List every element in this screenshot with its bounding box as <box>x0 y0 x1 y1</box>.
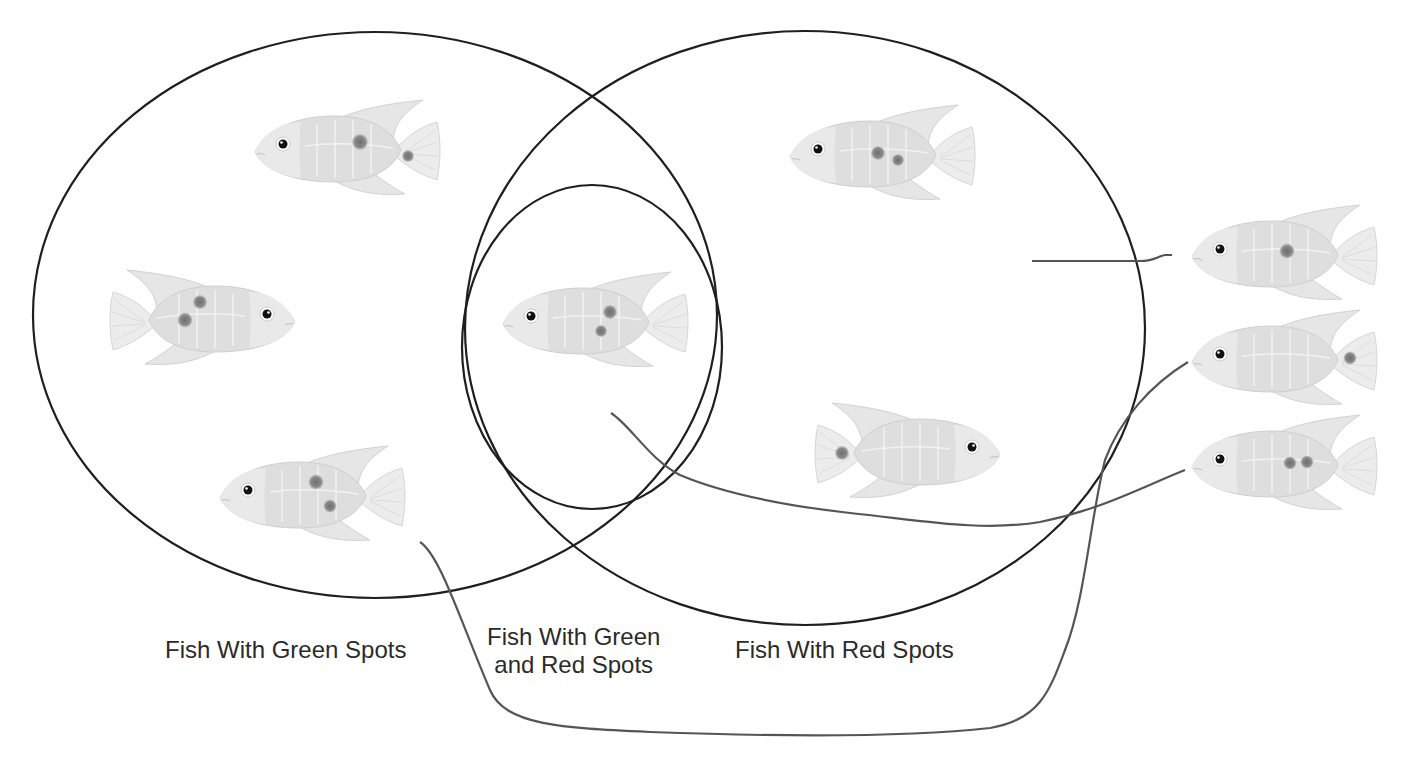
label-fish-with-green-spots: Fish With Green Spots <box>165 636 406 664</box>
fish-green-2 <box>110 270 295 364</box>
fish-both-1 <box>503 272 688 366</box>
fish-green-3 <box>220 446 405 540</box>
label-fish-with-red-spots: Fish With Red Spots <box>735 636 954 664</box>
connector-fish-b-to-green <box>420 362 1188 735</box>
fish-green-1 <box>255 100 440 194</box>
label-line-2: and Red Spots <box>487 651 660 679</box>
loose-fish-c <box>1192 415 1377 509</box>
fish-red-1 <box>790 105 975 199</box>
label-line-1: Fish With Green <box>487 623 660 651</box>
label-fish-with-green-and-red-spots: Fish With Green and Red Spots <box>487 623 660 679</box>
venn-diagram: Fish With Green Spots Fish With Green an… <box>0 0 1406 761</box>
loose-fish-b <box>1192 310 1377 404</box>
fish-red-2 <box>815 403 1000 497</box>
label-text: Fish With Red Spots <box>735 636 954 663</box>
connector-fish-a-to-red <box>1032 255 1172 261</box>
label-text: Fish With Green Spots <box>165 636 406 663</box>
loose-fish-a <box>1192 205 1377 299</box>
